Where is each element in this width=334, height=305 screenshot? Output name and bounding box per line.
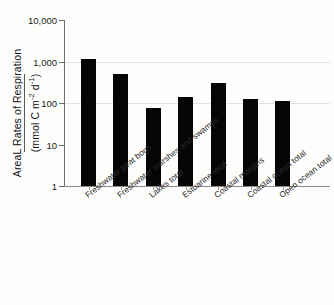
bar	[146, 108, 161, 187]
y-tick-mark-1	[59, 186, 64, 187]
y-unit-close: )	[29, 74, 41, 78]
y-tick-mark-100	[59, 103, 64, 104]
y-tick-label-10: 10	[46, 139, 57, 150]
y-tick-mark-10	[59, 145, 64, 146]
x-tick-mark	[251, 186, 252, 190]
respiration-bar-chart: AreaL Rates of Respiration (mmol C m-2 d…	[0, 0, 334, 305]
x-tick-mark	[218, 186, 219, 190]
y-unit-open: (mmol C m	[29, 100, 41, 152]
y-tick-label-10000: 10,000	[28, 15, 57, 26]
bar	[178, 97, 193, 186]
y-unit-mid: d	[29, 84, 41, 93]
y-axis-title-line1: AreaL Rates of Respiration	[11, 49, 23, 177]
y-axis-title: AreaL Rates of Respiration (mmol C m-2 d…	[9, 23, 43, 203]
bar	[81, 59, 96, 186]
x-tick-mark	[153, 186, 154, 190]
x-tick-mark	[186, 186, 187, 190]
bar	[113, 74, 128, 186]
y-tick-mark-10000	[59, 20, 64, 21]
plot-area: 1101001,00010,000	[64, 20, 330, 186]
x-tick-mark	[283, 186, 284, 190]
y-axis-title-units: (mmol C m-2 d-1)	[24, 74, 41, 153]
bar	[243, 99, 258, 186]
bar	[275, 101, 290, 186]
y-unit-exponent-day: -1	[27, 77, 36, 84]
x-tick-mark	[89, 186, 90, 190]
y-tick-mark-1000	[59, 62, 64, 63]
bar	[211, 83, 226, 186]
y-tick-label-1: 1	[52, 181, 57, 192]
y-tick-label-1000: 1,000	[33, 56, 57, 67]
x-axis-line	[64, 186, 330, 187]
y-tick-label-100: 100	[41, 98, 57, 109]
gridline-1000	[65, 62, 330, 63]
x-tick-mark	[121, 186, 122, 190]
y-unit-exponent-area: -2	[27, 93, 36, 100]
